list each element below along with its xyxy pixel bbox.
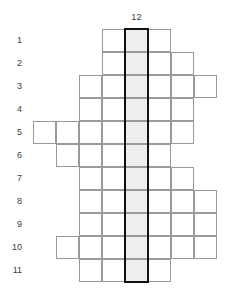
grid-cell[interactable] — [171, 121, 194, 144]
grid-cell[interactable] — [171, 213, 194, 236]
grid-cell-highlighted[interactable] — [125, 52, 148, 75]
row-number-label: 8 — [2, 190, 22, 213]
grid-cell[interactable] — [102, 98, 125, 121]
grid-cell[interactable] — [194, 190, 217, 213]
grid-cell[interactable] — [171, 52, 194, 75]
grid-cell[interactable] — [171, 98, 194, 121]
grid-cell[interactable] — [148, 98, 171, 121]
grid-cell[interactable] — [79, 259, 102, 282]
grid-cell[interactable] — [79, 121, 102, 144]
grid-cell[interactable] — [102, 259, 125, 282]
row-number-label: 1 — [2, 29, 22, 52]
grid-cell[interactable] — [56, 144, 79, 167]
grid-cell[interactable] — [102, 144, 125, 167]
row-number-label: 3 — [2, 75, 22, 98]
grid-cell[interactable] — [148, 167, 171, 190]
grid-cell-highlighted[interactable] — [125, 190, 148, 213]
grid-cell[interactable] — [148, 259, 171, 282]
grid-cell[interactable] — [148, 144, 171, 167]
row-number-label: 6 — [2, 144, 22, 167]
grid-cell[interactable] — [56, 236, 79, 259]
grid-cell[interactable] — [102, 167, 125, 190]
grid-cell[interactable] — [148, 213, 171, 236]
grid-cell[interactable] — [148, 236, 171, 259]
grid-cell[interactable] — [79, 167, 102, 190]
grid-cell[interactable] — [102, 29, 125, 52]
grid-cell[interactable] — [171, 75, 194, 98]
grid-cell[interactable] — [102, 52, 125, 75]
grid-cell[interactable] — [33, 121, 56, 144]
grid-cell[interactable] — [79, 236, 102, 259]
grid-cell[interactable] — [171, 236, 194, 259]
grid-cell-highlighted[interactable] — [125, 144, 148, 167]
grid-cell[interactable] — [79, 98, 102, 121]
grid-cell[interactable] — [56, 121, 79, 144]
grid-cell[interactable] — [171, 167, 194, 190]
grid-cell-highlighted[interactable] — [125, 29, 148, 52]
grid-cell[interactable] — [102, 121, 125, 144]
grid-cell[interactable] — [171, 190, 194, 213]
row-number-label: 7 — [2, 167, 22, 190]
grid-cell-highlighted[interactable] — [125, 213, 148, 236]
grid-cell[interactable] — [194, 75, 217, 98]
grid-cell[interactable] — [194, 236, 217, 259]
grid-cell[interactable] — [79, 75, 102, 98]
grid-cell-highlighted[interactable] — [125, 236, 148, 259]
grid-cell[interactable] — [102, 75, 125, 98]
puzzle-grid-container: 12 1234567891011 — [0, 0, 233, 296]
grid-cell-highlighted[interactable] — [125, 167, 148, 190]
grid-cell[interactable] — [148, 190, 171, 213]
row-number-label: 4 — [2, 98, 22, 121]
grid-cell[interactable] — [148, 121, 171, 144]
row-number-label: 10 — [2, 236, 22, 259]
grid-cell[interactable] — [79, 190, 102, 213]
row-number-label: 9 — [2, 213, 22, 236]
grid-cell[interactable] — [148, 29, 171, 52]
grid-cell[interactable] — [79, 144, 102, 167]
grid-cell-highlighted[interactable] — [125, 121, 148, 144]
grid-cell-highlighted[interactable] — [125, 98, 148, 121]
row-number-label: 5 — [2, 121, 22, 144]
grid-cell[interactable] — [102, 190, 125, 213]
row-number-label: 2 — [2, 52, 22, 75]
grid-cell[interactable] — [102, 236, 125, 259]
grid-cell-highlighted[interactable] — [125, 75, 148, 98]
grid-cell[interactable] — [148, 52, 171, 75]
grid-cell[interactable] — [194, 213, 217, 236]
grid-cell[interactable] — [102, 213, 125, 236]
grid-cell[interactable] — [148, 75, 171, 98]
grid-cell-highlighted[interactable] — [125, 259, 148, 282]
grid-cell[interactable] — [79, 213, 102, 236]
row-number-label: 11 — [2, 259, 22, 282]
column-number-label: 12 — [115, 11, 158, 23]
